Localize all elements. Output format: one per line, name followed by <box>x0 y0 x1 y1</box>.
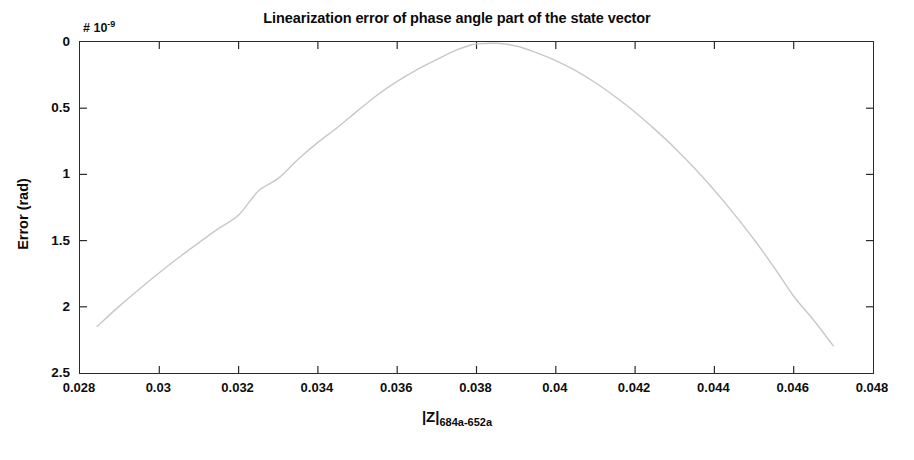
y-axis-tick-label: 2 <box>8 298 70 313</box>
x-axis-title-subscript: 684a-652a <box>439 416 492 428</box>
y-axis-tick-label: 2.5 <box>8 365 70 380</box>
y-axis-tick-label: 0.5 <box>8 100 70 115</box>
x-axis-tick-label: 0.048 <box>856 380 889 395</box>
x-axis-tick-label: 0.036 <box>380 380 413 395</box>
axis-tick-marks <box>80 42 873 373</box>
x-axis-title: |Z|684a-652a <box>0 408 914 425</box>
chart-title: Linearization error of phase angle part … <box>0 10 914 26</box>
plot-canvas <box>80 42 873 373</box>
y-axis-tick-label: 1.5 <box>8 232 70 247</box>
x-axis-tick-label: 0.046 <box>776 380 809 395</box>
y-exponent-power: -9 <box>107 19 115 29</box>
x-axis-tick-label: 0.028 <box>63 380 96 395</box>
x-axis-tick-label: 0.03 <box>146 380 171 395</box>
x-axis-tick-label: 0.04 <box>542 380 567 395</box>
data-series-line <box>97 43 833 346</box>
x-axis-tick-label: 0.032 <box>221 380 254 395</box>
x-axis-tick-label: 0.034 <box>301 380 334 395</box>
plot-area <box>79 41 874 374</box>
y-axis-tick-label: 0 <box>8 34 70 49</box>
chart-figure: Linearization error of phase angle part … <box>0 0 914 460</box>
x-axis-tick-label: 0.042 <box>618 380 651 395</box>
y-axis-tick-label: 1 <box>8 166 70 181</box>
x-axis-title-base: |Z| <box>422 408 440 425</box>
x-axis-tick-label: 0.044 <box>697 380 730 395</box>
x-axis-tick-label: 0.038 <box>459 380 492 395</box>
y-axis-exponent-annotation: # 10-9 <box>83 22 115 35</box>
y-axis-title: Error (rad) <box>15 129 31 299</box>
y-exponent-prefix: # 10 <box>83 21 107 35</box>
